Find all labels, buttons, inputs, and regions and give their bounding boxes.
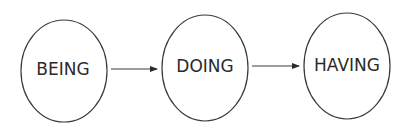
- node-being-label: BEING: [36, 61, 89, 78]
- node-doing-label: DOING: [176, 58, 233, 75]
- node-having-label: HAVING: [314, 57, 380, 74]
- being-doing-having-diagram: BEING DOING HAVING: [0, 0, 412, 134]
